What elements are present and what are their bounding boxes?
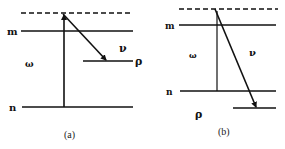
emission-arrow <box>63 14 106 60</box>
panel-a: m n ω ν ρ (a) <box>7 13 142 141</box>
caption-b: (b) <box>218 126 230 138</box>
label-omega: ω <box>189 50 197 60</box>
emission-arrow <box>215 9 256 107</box>
label-rho: ρ <box>135 55 142 68</box>
label-nu: ν <box>249 47 256 58</box>
label-m: m <box>7 26 18 37</box>
energy-level-diagram: m n ω ν ρ (a) m n ω ν ρ (b) <box>0 0 285 149</box>
label-rho: ρ <box>195 108 202 121</box>
label-m: m <box>165 21 175 31</box>
caption-a: (a) <box>64 129 75 141</box>
label-n: n <box>9 102 17 113</box>
label-omega: ω <box>25 59 34 69</box>
label-n: n <box>166 87 173 97</box>
panel-b: m n ω ν ρ (b) <box>165 9 278 138</box>
label-nu: ν <box>119 42 127 55</box>
